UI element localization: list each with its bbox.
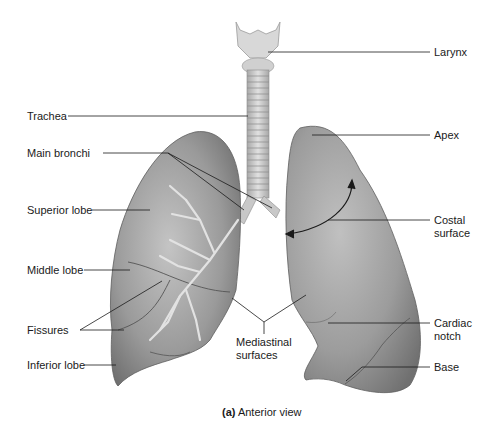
label-cardiac-notch: Cardiac notch: [434, 317, 472, 343]
figure-caption: (a) Anterior view: [222, 406, 301, 418]
label-trachea: Trachea: [27, 110, 67, 123]
larynx-shape: [236, 22, 280, 74]
label-cardiac-line2: notch: [434, 330, 472, 343]
label-costal-line1: Costal: [434, 214, 470, 227]
label-base: Base: [434, 361, 459, 374]
label-superior-lobe: Superior lobe: [27, 204, 92, 217]
label-main-bronchi: Main bronchi: [27, 147, 90, 160]
lung-anatomy-diagram: Trachea Main bronchi Superior lobe Middl…: [0, 0, 495, 440]
label-middle-lobe: Middle lobe: [27, 264, 83, 277]
label-cardiac-line1: Cardiac: [434, 317, 472, 330]
label-inferior-lobe: Inferior lobe: [27, 359, 85, 372]
left-lung-shape: [286, 126, 421, 392]
lung-illustration: [0, 0, 495, 440]
label-mediastinal-line1: Mediastinal: [236, 336, 292, 349]
right-lung-shape: [110, 132, 240, 386]
label-apex: Apex: [434, 129, 459, 142]
label-mediastinal-surfaces: Mediastinal surfaces: [236, 336, 292, 362]
caption-text: Anterior view: [238, 406, 302, 418]
caption-prefix: (a): [222, 406, 235, 418]
label-mediastinal-line2: surfaces: [236, 349, 292, 362]
label-fissures: Fissures: [27, 324, 69, 337]
label-larynx: Larynx: [434, 46, 467, 59]
label-costal-line2: surface: [434, 227, 470, 240]
label-costal-surface: Costal surface: [434, 214, 470, 240]
